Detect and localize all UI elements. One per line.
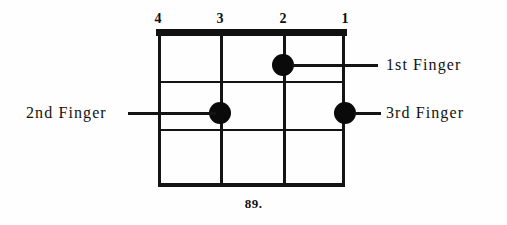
finger-dot-first[interactable] [272,54,294,76]
string-number-3: 3 [210,12,230,26]
fret-line-3 [158,183,345,187]
string-line-4 [158,33,161,187]
figure-caption: 89. [0,196,507,212]
fret-line-2 [158,129,345,131]
string-number-1: 1 [335,12,355,26]
leader-line-third [354,112,381,115]
label-third-finger: 3rd Finger [386,105,464,121]
label-first-finger: 1st Finger [386,57,461,73]
string-number-4: 4 [148,12,168,26]
string-number-2: 2 [273,12,293,26]
nut-bar [156,29,347,36]
fret-line-1 [158,81,345,83]
finger-dot-third[interactable] [334,102,356,124]
leader-line-first [292,64,378,67]
fretboard-grid [158,33,345,187]
leader-line-second [128,112,216,115]
figure-canvas: 4 3 2 1 1st Finger 2nd Finger 3rd Finger… [0,0,507,225]
label-second-finger: 2nd Finger [26,105,107,121]
